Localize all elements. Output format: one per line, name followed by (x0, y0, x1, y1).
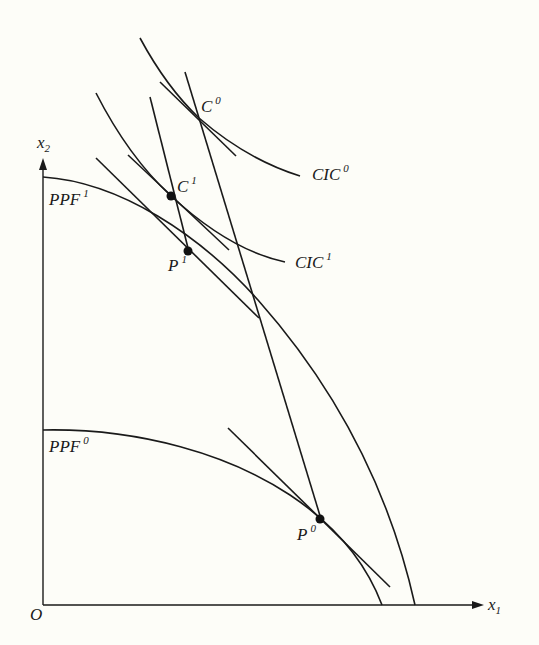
ppf0-curve (43, 430, 382, 605)
cic1-label: CIC1 (295, 250, 332, 272)
cic0-label: CIC0 (312, 162, 349, 184)
point-p0 (316, 515, 325, 524)
ppf-cic-diagram: O x2 x1 PPF1 PPF0 CIC0 CIC1 C0 C1 P1 P0 (0, 0, 539, 645)
p0-label: P0 (296, 522, 316, 544)
axes (39, 158, 484, 609)
price-line-at-p0 (228, 428, 390, 587)
x-axis-arrow-icon (472, 601, 484, 609)
y-axis-arrow-icon (39, 158, 47, 170)
y-axis-label: x2 (36, 133, 51, 154)
p1-label: P1 (167, 253, 187, 275)
ppf1-label: PPF1 (48, 187, 89, 209)
price-line-at-c0 (160, 82, 236, 156)
origin-label: O (30, 605, 42, 624)
x-axis-label: x1 (487, 595, 501, 616)
c1-label: C1 (177, 174, 197, 196)
ppf1-curve (43, 177, 415, 605)
c0-label: C0 (201, 94, 221, 116)
ppf0-label: PPF0 (48, 434, 89, 456)
point-c1 (167, 192, 176, 201)
trade-line-p1-c1 (150, 97, 189, 252)
